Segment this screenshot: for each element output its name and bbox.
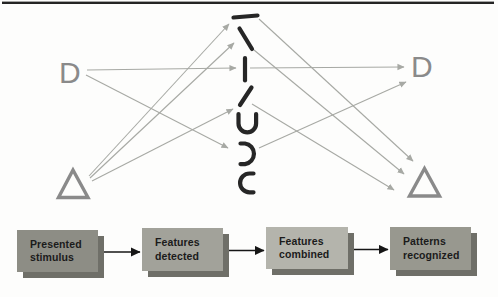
feature-slash-icon xyxy=(240,88,252,106)
box-label-features-combined: Features combined xyxy=(279,235,342,261)
box-face: Presented stimulus xyxy=(17,230,98,272)
figure-top-border xyxy=(2,2,494,4)
feature-backslash-icon xyxy=(240,29,253,50)
feature-curve-open-top-icon xyxy=(239,114,257,132)
arrow-d-to-curve-open-left xyxy=(86,75,228,148)
box-face: Features detected xyxy=(142,228,223,271)
figure-canvas: D D Presented stimulus F xyxy=(0,0,498,297)
right-pattern-letter-d: D xyxy=(411,50,433,83)
left-stimulus-letter-d: D xyxy=(59,56,81,89)
arrow-triangle-to-backslash xyxy=(90,43,234,178)
box-label-features-detected: Features detected xyxy=(155,236,217,262)
stimulus-to-feature-arrows xyxy=(86,24,236,181)
arrow-backslash-to-triangle xyxy=(254,50,404,174)
box-label-patterns-recognized: Patterns recognized xyxy=(403,235,465,261)
box-label-presented-stimulus: Presented stimulus xyxy=(30,238,92,264)
feature-to-pattern-arrows xyxy=(250,19,413,190)
arrow-d-to-vertical-line xyxy=(87,68,236,70)
left-stimulus-triangle-icon xyxy=(59,170,89,198)
feature-curve-open-left-icon xyxy=(241,144,254,165)
feature-detectors xyxy=(234,16,258,193)
feature-curve-open-right-icon xyxy=(240,174,253,193)
flowchart-box-features-combined: Features combined xyxy=(266,227,348,269)
box-face: Patterns recognized xyxy=(390,227,471,270)
right-pattern-triangle-icon xyxy=(410,169,440,197)
flowchart-box-presented-stimulus: Presented stimulus xyxy=(17,230,98,272)
arrow-vertical-line-to-d xyxy=(250,67,404,68)
box-face: Features combined xyxy=(266,227,348,269)
arrow-triangle-to-horizontal-line xyxy=(89,24,229,176)
feature-horizontal-line-icon xyxy=(234,16,258,18)
arrow-slash-to-triangle xyxy=(252,104,394,190)
arrow-horizontal-line-to-triangle xyxy=(259,19,413,161)
flowchart-box-features-detected: Features detected xyxy=(142,228,223,271)
flowchart-box-patterns-recognized: Patterns recognized xyxy=(390,227,471,270)
arrow-triangle-to-slash xyxy=(92,109,233,181)
